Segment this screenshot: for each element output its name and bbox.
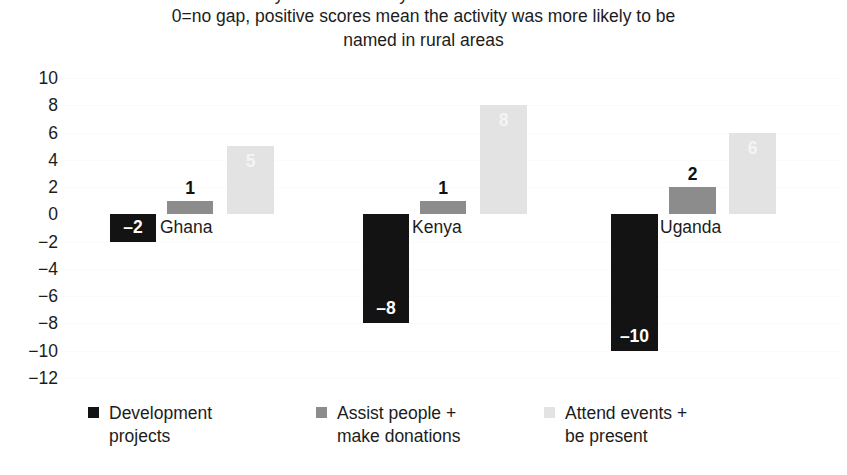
gridline [62, 269, 840, 270]
y-axis-tick-label: −8 [4, 314, 58, 332]
bar-value-label: –8 [363, 299, 409, 317]
legend-item[interactable]: Developmentprojects [88, 402, 212, 448]
y-axis-tick-label: −6 [4, 287, 58, 305]
bar-value-label: –2 [110, 218, 156, 236]
bar-value-label: 5 [227, 152, 274, 170]
gridline [62, 323, 840, 324]
y-axis-tick-label: 6 [4, 124, 58, 142]
legend-item[interactable]: Attend events +be present [544, 402, 687, 448]
bar [669, 187, 716, 214]
gridline [62, 242, 840, 243]
category-label: Ghana [160, 218, 213, 236]
category-label: Uganda [660, 218, 721, 236]
y-axis-tick-label: 8 [4, 96, 58, 114]
y-axis-tick-label: 2 [4, 178, 58, 196]
zero-axis-line [62, 214, 840, 215]
gridline [62, 133, 840, 134]
bar-value-label: 6 [729, 139, 776, 157]
y-axis-tick-label: −12 [4, 369, 58, 387]
chart-title-clipped-text: activity was more likely to be named in … [0, 0, 847, 4]
chart-title-clipped-line: activity was more likely to be named in … [0, 0, 847, 4]
legend-item[interactable]: Assist people +make donations [316, 402, 461, 448]
legend-swatch-icon [316, 407, 327, 418]
legend-label-line-2: make donations [337, 425, 461, 448]
legend-label: Assist people +make donations [337, 402, 461, 448]
y-axis-tick-label: −4 [4, 260, 58, 278]
legend-label-line-1: Attend events + [565, 402, 687, 425]
legend-label-line-2: be present [565, 425, 687, 448]
gridline [62, 160, 840, 161]
bar-value-label: 8 [480, 111, 527, 129]
plot-area: –215–818–1026GhanaKenyaUganda [62, 78, 840, 378]
legend-label-line-1: Development [109, 402, 212, 425]
bar-value-label: 2 [669, 165, 716, 183]
legend-swatch-icon [544, 407, 555, 418]
bar [420, 201, 466, 215]
gridline [62, 351, 840, 352]
legend-swatch-icon [88, 407, 99, 418]
bar-value-label: –10 [611, 327, 658, 345]
bar [167, 201, 213, 215]
gridline [62, 105, 840, 106]
chart-title: activity was more likely to be named in … [0, 0, 847, 52]
legend-label: Developmentprojects [109, 402, 212, 448]
gridline [62, 296, 840, 297]
bar-value-label: 1 [167, 179, 213, 197]
y-axis-tick-label: −2 [4, 233, 58, 251]
bar-value-label: 1 [420, 179, 466, 197]
legend-label-line-1: Assist people + [337, 402, 461, 425]
y-axis-tick-label: 0 [4, 205, 58, 223]
category-label: Kenya [412, 218, 462, 236]
gridline [62, 378, 840, 379]
y-axis-tick-label: −10 [4, 342, 58, 360]
y-axis-tick-label: 4 [4, 151, 58, 169]
legend-label-line-2: projects [109, 425, 212, 448]
bar-chart: activity was more likely to be named in … [0, 0, 847, 475]
chart-legend: DevelopmentprojectsAssist people +make d… [0, 402, 847, 464]
chart-title-line-2: named in rural areas [0, 28, 847, 52]
y-axis: 1086420−2−4−6−8−10−12 [0, 78, 58, 378]
gridline [62, 78, 840, 79]
y-axis-tick-label: 10 [4, 69, 58, 87]
legend-label: Attend events +be present [565, 402, 687, 448]
chart-title-line-1: 0=no gap, positive scores mean the activ… [0, 4, 847, 28]
